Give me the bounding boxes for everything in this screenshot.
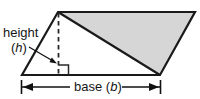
height-var-symbol: h xyxy=(15,40,22,55)
height-var-paren-close: ) xyxy=(23,40,27,55)
base-dimension-arrowhead-right-icon xyxy=(149,83,159,91)
base-label: base (b) xyxy=(74,80,122,93)
height-variable-label: (h) xyxy=(11,41,27,54)
base-var-paren-close: ) xyxy=(117,79,121,94)
height-label: height xyxy=(3,26,38,39)
base-label-text: base xyxy=(74,79,102,94)
base-dimension-arrowhead-left-icon xyxy=(23,83,33,91)
geometry-diagram: height (h) base (b) xyxy=(0,0,200,99)
